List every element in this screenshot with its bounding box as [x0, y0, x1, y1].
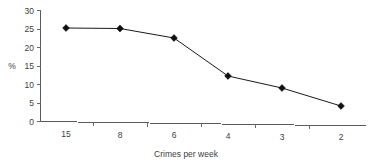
x-tick-label-3: 3 — [280, 132, 285, 142]
x-axis-line — [41, 122, 367, 127]
x-tick-marks — [93, 122, 309, 129]
series-markers — [63, 25, 345, 110]
y-tick-label-0: 0 — [29, 117, 34, 127]
data-point-4[interactable] — [225, 73, 232, 80]
x-tick-label-15: 15 — [61, 129, 71, 139]
x-tick-label-2: 2 — [339, 132, 344, 142]
series-line — [66, 28, 341, 106]
y-tick-label-25: 25 — [25, 24, 35, 34]
y-tick-marks — [37, 11, 41, 122]
data-point-5[interactable] — [279, 85, 286, 92]
x-axis-title: Crimes per week — [154, 149, 219, 159]
chart-canvas: 0 5 10 15 20 25 30 % 15 8 6 4 3 2 — [0, 0, 373, 168]
y-tick-label-5: 5 — [29, 98, 34, 108]
y-tick-label-20: 20 — [25, 43, 35, 53]
screenshot-root: 0 5 10 15 20 25 30 % 15 8 6 4 3 2 — [0, 0, 373, 168]
x-tick-label-4: 4 — [226, 131, 231, 141]
data-point-6[interactable] — [338, 103, 345, 110]
y-axis-title: % — [8, 61, 16, 71]
y-tick-label-30: 30 — [25, 6, 35, 16]
data-point-3[interactable] — [171, 35, 178, 42]
y-tick-label-15: 15 — [25, 61, 35, 71]
line-chart-figure: 0 5 10 15 20 25 30 % 15 8 6 4 3 2 — [0, 0, 373, 168]
data-point-1[interactable] — [63, 25, 70, 32]
y-tick-label-10: 10 — [25, 80, 35, 90]
data-point-2[interactable] — [117, 25, 124, 32]
x-tick-label-6: 6 — [172, 130, 177, 140]
x-tick-label-8: 8 — [118, 130, 123, 140]
